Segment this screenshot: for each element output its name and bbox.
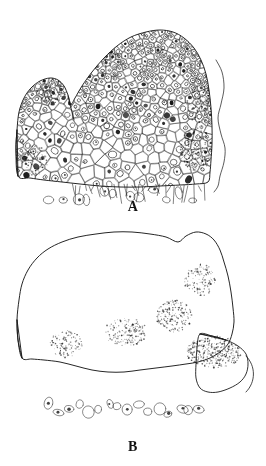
panel-label-a: A [0,200,266,214]
figure-panel-b [0,225,266,466]
panel-label-b: B [0,440,266,454]
meristem-drawing-b [0,225,266,466]
figure-panel-a [0,0,266,225]
figure-root: A B [0,0,266,466]
meristem-drawing-a [0,0,266,225]
